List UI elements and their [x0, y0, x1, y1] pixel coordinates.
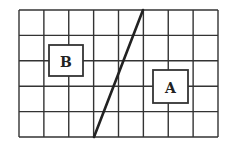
box-b-label: B	[60, 54, 72, 70]
box-b: B	[49, 45, 83, 76]
box-a: A	[153, 70, 188, 103]
grid-diagram: B A	[0, 0, 228, 148]
box-a-label: A	[164, 80, 177, 96]
